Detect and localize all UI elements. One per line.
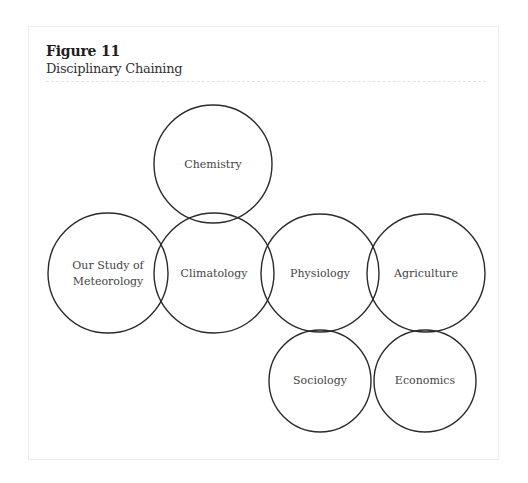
label-climatology: Climatology <box>181 267 249 280</box>
node-sociology: Sociology <box>269 330 371 432</box>
label-agriculture: Agriculture <box>393 267 458 280</box>
node-meteorology: Our Study of Meteorology <box>48 213 168 333</box>
node-chemistry: Chemistry <box>154 105 272 223</box>
node-agriculture: Agriculture <box>367 214 485 332</box>
label-economics: Economics <box>395 374 456 387</box>
node-climatology: Climatology <box>154 213 274 333</box>
label-chemistry: Chemistry <box>184 158 242 171</box>
label-sociology: Sociology <box>293 374 348 387</box>
circle-meteorology <box>48 213 168 333</box>
disciplinary-chaining-diagram: Chemistry Our Study of Meteorology Clima… <box>0 0 528 483</box>
node-physiology: Physiology <box>261 214 379 332</box>
node-economics: Economics <box>374 330 476 432</box>
label-meteorology-line2: Meteorology <box>73 275 144 288</box>
label-physiology: Physiology <box>290 267 351 280</box>
label-meteorology-line1: Our Study of <box>72 259 144 272</box>
